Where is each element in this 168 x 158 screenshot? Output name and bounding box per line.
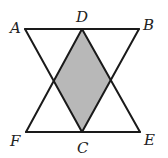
label-d: D — [75, 8, 88, 26]
label-a: A — [8, 19, 21, 37]
label-c: C — [77, 139, 89, 157]
geometry-figure: A D B F C E — [0, 0, 168, 158]
label-e: E — [143, 131, 155, 149]
figure-canvas: A D B F C E — [0, 0, 168, 158]
label-f: F — [9, 132, 21, 150]
shaded-rhombus — [54, 29, 111, 132]
label-b: B — [142, 16, 154, 34]
